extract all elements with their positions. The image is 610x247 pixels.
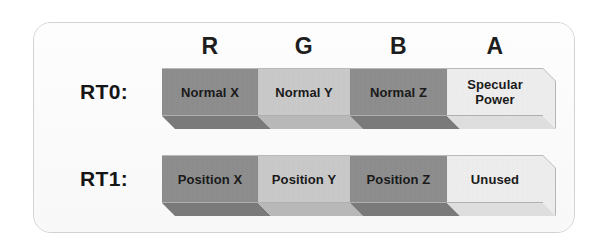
segment-label: Normal Z xyxy=(368,85,429,100)
channel-header-row: RGBA xyxy=(162,31,543,63)
channel-segment-g[interactable]: Normal Y xyxy=(258,69,350,115)
segment-label-line1: Position Z xyxy=(367,172,431,187)
channel-segment-a[interactable]: SpecularPower xyxy=(447,69,543,115)
segment-label-line1: Unused xyxy=(471,172,519,187)
bottom-face-segment xyxy=(162,116,258,129)
segment-label: Unused xyxy=(469,172,521,187)
channel-header-b: B xyxy=(350,31,447,63)
bar-right-face xyxy=(543,68,556,116)
diagram-canvas: RGBA RT0:Normal XNormal YNormal ZSpecula… xyxy=(0,0,610,247)
bottom-face-segment xyxy=(350,116,447,129)
segment-label-line1: Specular xyxy=(467,77,523,92)
channel-segment-r[interactable]: Normal X xyxy=(162,69,258,115)
bottom-face-segment xyxy=(350,203,447,216)
bottom-face-segment xyxy=(258,203,350,216)
segment-label: Normal Y xyxy=(273,85,335,100)
channel-segment-b[interactable]: Normal Z xyxy=(350,69,447,115)
segment-label: Normal X xyxy=(179,85,241,100)
bar-bottom-face xyxy=(162,116,543,129)
row-label-rt0: RT0: xyxy=(54,80,154,104)
segment-label-line1: Position X xyxy=(178,172,243,187)
segment-label: Position Z xyxy=(365,172,433,187)
bottom-face-shade xyxy=(258,116,363,129)
bar-front-face: Normal XNormal YNormal ZSpecularPower xyxy=(162,68,543,116)
bar-bottom-face xyxy=(162,203,543,216)
segment-label-line1: Position Y xyxy=(272,172,336,187)
channel-header-g: G xyxy=(258,31,350,63)
channel-segment-r[interactable]: Position X xyxy=(162,156,258,202)
bottom-face-shade xyxy=(162,116,271,129)
bottom-face-shade xyxy=(447,116,556,129)
bottom-face-shade xyxy=(258,203,363,216)
channel-segment-b[interactable]: Position Z xyxy=(350,156,447,202)
bottom-face-shade xyxy=(350,203,460,216)
bottom-face-segment xyxy=(447,116,543,129)
segment-label-line1: Normal X xyxy=(181,85,239,100)
channel-segment-a[interactable]: Unused xyxy=(447,156,543,202)
segment-label-line2: Power xyxy=(467,92,523,107)
bar-right-face xyxy=(543,155,556,203)
bottom-face-segment xyxy=(162,203,258,216)
segment-label-line1: Normal Z xyxy=(370,85,427,100)
channel-header-r: R xyxy=(162,31,258,63)
row-label-rt1: RT1: xyxy=(54,167,154,191)
bottom-face-segment xyxy=(447,203,543,216)
segment-label: SpecularPower xyxy=(465,77,525,107)
segment-label-line1: Normal Y xyxy=(275,85,333,100)
channel-header-a: A xyxy=(447,31,543,63)
bottom-face-segment xyxy=(258,116,350,129)
bottom-face-shade xyxy=(350,116,460,129)
render-target-bar: Position XPosition YPosition ZUnused xyxy=(162,155,543,203)
segment-label: Position X xyxy=(176,172,245,187)
segment-label: Position Y xyxy=(270,172,338,187)
channel-segment-g[interactable]: Position Y xyxy=(258,156,350,202)
bottom-face-shade xyxy=(162,203,271,216)
render-target-bar: Normal XNormal YNormal ZSpecularPower xyxy=(162,68,543,116)
bottom-face-shade xyxy=(447,203,556,216)
bar-front-face: Position XPosition YPosition ZUnused xyxy=(162,155,543,203)
